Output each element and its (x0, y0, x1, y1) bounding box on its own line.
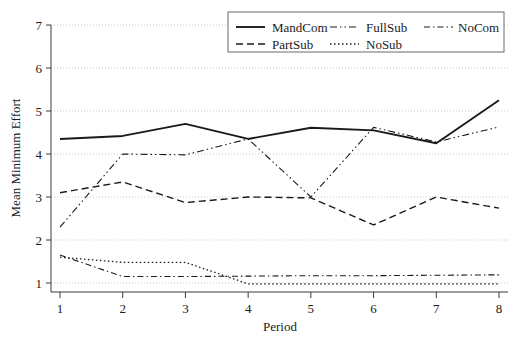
legend-label-nocom: NoCom (458, 20, 499, 35)
y-tick-label-5: 5 (36, 104, 43, 119)
chart-legend: MandComFullSubNoComPartSubNoSub (228, 12, 504, 52)
x-tick-label-2: 2 (119, 301, 126, 316)
x-tick-label-4: 4 (245, 301, 252, 316)
y-tick-label-1: 1 (36, 276, 43, 291)
y-tick-label-4: 4 (36, 147, 43, 162)
chart-figure: 1234567 12345678 Mean Minimum Effort Per… (0, 0, 516, 344)
y-axis-title: Mean Minimum Effort (8, 98, 23, 217)
x-axis-title: Period (263, 319, 297, 334)
x-tick-label-5: 5 (308, 301, 315, 316)
legend-label-mandcom: MandCom (272, 20, 328, 35)
y-tick-label-7: 7 (36, 18, 43, 33)
legend-label-fullsub: FullSub (366, 20, 407, 35)
y-tick-label-3: 3 (36, 190, 43, 205)
x-tick-label-3: 3 (182, 301, 189, 316)
line-chart: 1234567 12345678 Mean Minimum Effort Per… (0, 0, 516, 344)
x-tick-label-1: 1 (57, 301, 64, 316)
legend-label-nosub: NoSub (366, 37, 402, 52)
legend-label-partsub: PartSub (272, 37, 313, 52)
x-tick-label-8: 8 (496, 301, 503, 316)
x-tick-label-7: 7 (433, 301, 440, 316)
x-tick-label-6: 6 (370, 301, 377, 316)
y-tick-label-2: 2 (36, 233, 43, 248)
y-tick-label-6: 6 (36, 61, 43, 76)
